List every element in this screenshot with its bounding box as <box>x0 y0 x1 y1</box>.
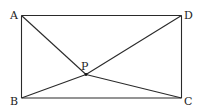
segment-cp <box>86 75 182 99</box>
segment-dp <box>86 16 182 75</box>
label-a: A <box>9 9 19 22</box>
label-d: D <box>184 9 193 22</box>
segment-ap <box>22 16 87 75</box>
geometry-diagram: A B C D P <box>0 0 198 107</box>
label-b: B <box>10 95 18 107</box>
point-p-dot <box>85 73 88 76</box>
segment-bp <box>22 75 87 99</box>
label-c: C <box>184 95 192 107</box>
label-p: P <box>81 60 89 73</box>
